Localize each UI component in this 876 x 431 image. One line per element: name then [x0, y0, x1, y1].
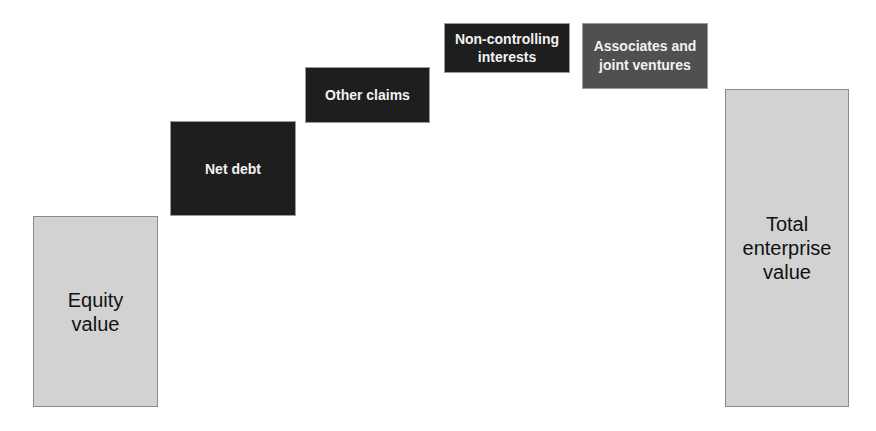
- bar-non-controlling-interests: Non-controlling interests: [444, 23, 570, 73]
- bar-net-debt: Net debt: [170, 121, 296, 216]
- bar-associates-joint-ventures: Associates and joint ventures: [582, 23, 708, 89]
- bar-other-claims: Other claims: [305, 67, 430, 123]
- bar-label-non-controlling-interests: Non-controlling interests: [455, 30, 559, 66]
- bar-equity-value: Equity value: [33, 216, 158, 407]
- bar-label-associates-joint-ventures: Associates and joint ventures: [594, 37, 697, 75]
- bar-label-other-claims: Other claims: [325, 86, 410, 104]
- bar-label-net-debt: Net debt: [205, 160, 261, 178]
- bar-total-enterprise-value: Total enterprise value: [725, 89, 849, 407]
- bar-label-equity-value: Equity value: [68, 288, 124, 336]
- bar-label-total-enterprise-value: Total enterprise value: [743, 212, 832, 284]
